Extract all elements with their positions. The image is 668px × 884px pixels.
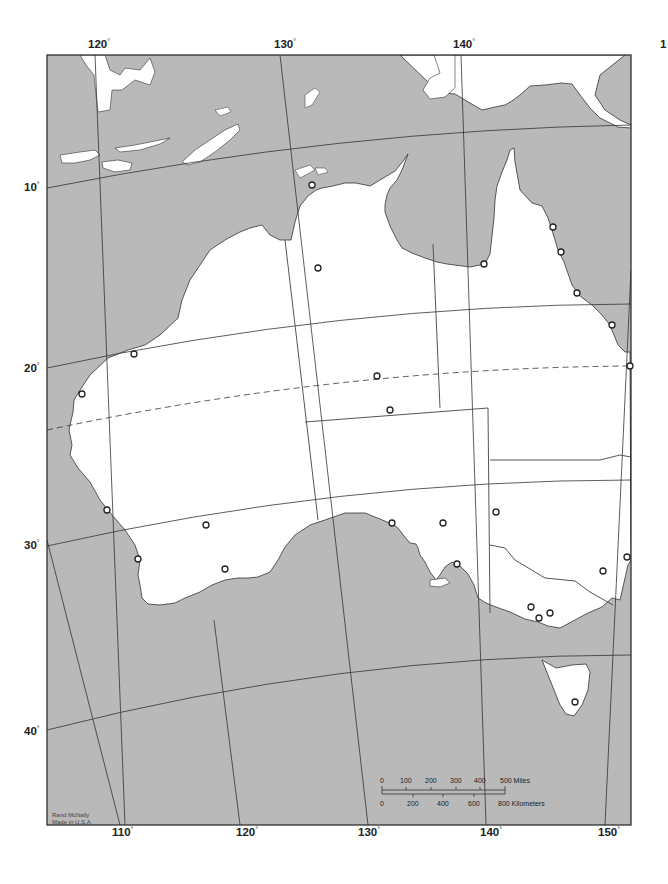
latitude-label-10: 10°: [24, 181, 40, 193]
label-value: 10: [24, 181, 37, 193]
degree-symbol: °: [107, 38, 110, 45]
scale-miles-300: 300: [450, 777, 462, 784]
latitude-label-20: 20°: [24, 362, 40, 374]
city-marker: [309, 182, 315, 188]
label-value: 120: [88, 38, 107, 50]
city-marker: [315, 265, 321, 271]
scale-km-end: 800 Kilometers: [498, 800, 545, 807]
city-marker: [558, 249, 564, 255]
longitude-label-150-bottom: 150°: [598, 826, 620, 838]
city-marker: [203, 522, 209, 528]
city-marker: [440, 520, 446, 526]
longitude-label-120-top: 120°: [88, 38, 110, 50]
degree-symbol: °: [472, 38, 475, 45]
label-value: 40: [24, 725, 37, 737]
scale-km-200: 200: [407, 800, 419, 807]
city-marker: [550, 224, 556, 230]
longitude-label-140-top: 140°: [453, 38, 475, 50]
scale-miles-0: 0: [380, 777, 384, 784]
city-marker: [374, 373, 380, 379]
degree-symbol: °: [499, 826, 502, 833]
city-marker: [528, 604, 534, 610]
scale-miles-400: 400: [474, 777, 486, 784]
scale-km-600: 600: [468, 800, 480, 807]
degree-symbol: °: [37, 181, 40, 188]
city-marker: [135, 556, 141, 562]
label-value: 110: [112, 826, 131, 838]
longitude-label-120-bottom: 120°: [236, 826, 258, 838]
credit-line-2: Made in U.S.A.: [52, 819, 92, 826]
longitude-label-130-bottom: 130°: [358, 826, 380, 838]
city-marker: [609, 322, 615, 328]
scale-km-0: 0: [380, 800, 384, 807]
degree-symbol: °: [37, 725, 40, 732]
publisher-credit: Rand McNally Made in U.S.A.: [52, 812, 92, 825]
degree-symbol: °: [377, 826, 380, 833]
scale-km-400: 400: [437, 800, 449, 807]
city-marker: [79, 391, 85, 397]
city-marker: [574, 290, 580, 296]
degree-symbol: °: [293, 38, 296, 45]
longitude-label-110-bottom: 110°: [112, 826, 133, 838]
longitude-label-130-top: 130°: [274, 38, 296, 50]
label-value: 120: [236, 826, 255, 838]
city-marker: [481, 261, 487, 267]
city-marker: [572, 699, 578, 705]
label-value: 1: [660, 38, 666, 50]
city-marker: [387, 407, 393, 413]
city-marker: [104, 507, 110, 513]
scale-miles-end: 500 Miles: [500, 777, 530, 784]
city-marker: [600, 568, 606, 574]
label-value: 20: [24, 362, 37, 374]
label-value: 30: [24, 539, 37, 551]
degree-symbol: °: [37, 362, 40, 369]
label-value: 140: [453, 38, 472, 50]
longitude-label-150-top-partial: 1: [660, 38, 666, 50]
city-marker: [547, 610, 553, 616]
degree-symbol: °: [131, 826, 134, 833]
degree-symbol: °: [617, 826, 620, 833]
city-marker: [389, 520, 395, 526]
label-value: 130: [274, 38, 293, 50]
longitude-label-140-bottom: 140°: [480, 826, 502, 838]
label-value: 130: [358, 826, 377, 838]
city-marker: [493, 509, 499, 515]
latitude-label-40: 40°: [24, 725, 40, 737]
degree-symbol: °: [255, 826, 258, 833]
label-value: 150: [598, 826, 617, 838]
city-marker: [536, 615, 542, 621]
label-value: 140: [480, 826, 499, 838]
latitude-label-30: 30°: [24, 539, 40, 551]
scale-miles-200: 200: [425, 777, 437, 784]
australia-map: [0, 0, 668, 884]
city-marker: [222, 566, 228, 572]
scale-miles-100: 100: [400, 777, 412, 784]
credit-line-1: Rand McNally: [52, 812, 92, 819]
degree-symbol: °: [37, 539, 40, 546]
city-marker: [624, 554, 630, 560]
city-marker: [627, 363, 633, 369]
city-marker: [454, 561, 460, 567]
city-marker: [131, 351, 137, 357]
